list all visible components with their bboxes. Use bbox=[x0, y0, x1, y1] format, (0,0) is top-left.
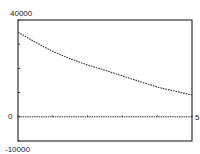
x-label-right: 5 bbox=[195, 113, 200, 122]
data-curve bbox=[18, 32, 192, 95]
y-label-zero: 0 bbox=[8, 112, 13, 121]
y-label-top: 40000 bbox=[10, 9, 33, 18]
y-label-bottom: -10000 bbox=[5, 145, 30, 154]
chart: 40000 0 -10000 5 bbox=[0, 0, 200, 154]
plot-frame bbox=[18, 20, 192, 141]
